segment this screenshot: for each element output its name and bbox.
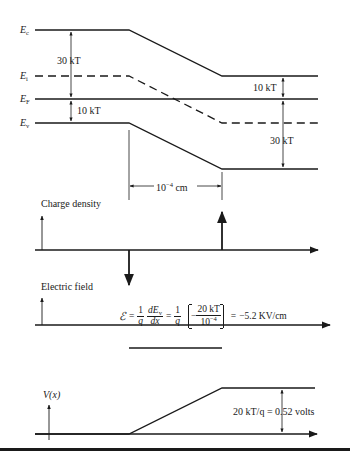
potential-label: V(x) xyxy=(43,390,60,400)
charge-density-label: Charge density xyxy=(41,199,101,209)
ec-label: Ec xyxy=(20,25,29,37)
left-gap-ef-ev-label: 10 kT xyxy=(77,106,101,116)
electric-field-equation: ℰ = 1q dEvdx = 1q − 20 kT10−4 = −5.2 KV/… xyxy=(119,305,287,328)
ev-label: Ev xyxy=(20,118,29,130)
ef-label: EF xyxy=(20,94,30,106)
bottom-rule xyxy=(0,448,350,451)
potential-annotation: 20 kT/q = 0.52 volts xyxy=(233,407,314,417)
ei-label: Ei xyxy=(20,71,28,83)
right-gap-ef-ev-label: 30 kT xyxy=(270,136,294,146)
right-gap-ec-ef-label: 10 kT xyxy=(253,83,277,93)
ec-band-line xyxy=(35,30,318,76)
left-gap-ec-ef-label: 30 kT xyxy=(57,56,81,66)
diagram-graphics xyxy=(0,0,350,454)
depletion-width-label: 10−4 cm xyxy=(156,182,188,193)
ev-band-line xyxy=(35,123,318,169)
electric-field-label: Electric field xyxy=(41,282,93,292)
